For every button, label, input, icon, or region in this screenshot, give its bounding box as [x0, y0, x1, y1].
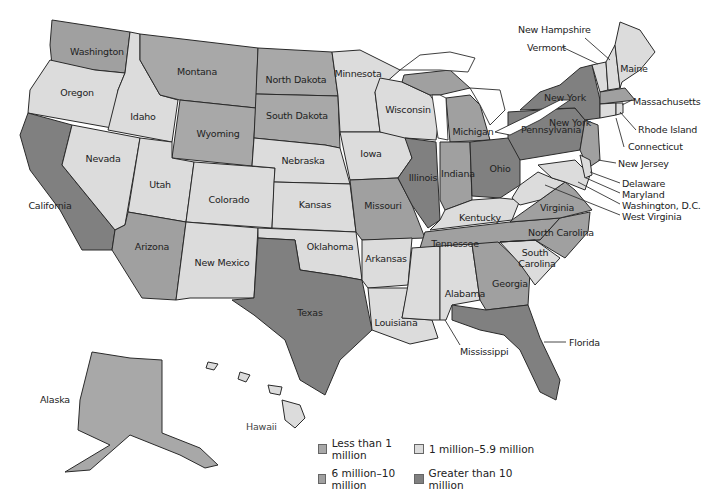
- label-oklahoma: Oklahoma: [307, 241, 354, 252]
- callout-hawaii: Hawaii: [246, 421, 277, 432]
- hawaii-island-3: [238, 372, 250, 382]
- hawaii-island-4: [206, 362, 218, 370]
- label-iowa: Iowa: [360, 148, 381, 159]
- callout-west-virginia: West Virginia: [622, 211, 682, 222]
- label-tennessee: Tennessee: [431, 238, 479, 249]
- callout-delaware: Delaware: [622, 178, 665, 189]
- state-north-dakota[interactable]: [256, 48, 338, 96]
- state-connecticut[interactable]: [600, 103, 616, 118]
- label-ohio: Ohio: [489, 163, 510, 174]
- callout-vermont: Vermont: [527, 42, 566, 53]
- label-illinois: Illinois: [409, 172, 438, 183]
- label-montana: Montana: [177, 66, 217, 77]
- label-nevada: Nevada: [85, 153, 120, 164]
- legend-label: Greater than 10 million: [429, 467, 544, 491]
- label-south-carolina-2: Carolina: [518, 258, 556, 269]
- legend-item-6to10m: 6 million–10 million: [318, 467, 414, 491]
- label-new-york: New York: [549, 117, 591, 128]
- label-virginia: Virginia: [540, 202, 574, 213]
- label-georgia: Georgia: [492, 278, 528, 289]
- label-missouri: Missouri: [364, 200, 402, 211]
- label-louisiana: Louisiana: [374, 317, 417, 328]
- legend-label: 6 million–10 million: [331, 467, 414, 491]
- label-kentucky: Kentucky: [459, 212, 501, 223]
- label-idaho: Idaho: [130, 111, 156, 122]
- label-north-carolina: North Carolina: [528, 227, 594, 238]
- callout-new-hampshire: New Hampshire: [518, 24, 591, 35]
- label-south-carolina-1: South: [522, 247, 549, 258]
- state-maine[interactable]: [615, 22, 655, 88]
- label-utah: Utah: [149, 179, 171, 190]
- callout-maryland: Maryland: [622, 189, 664, 200]
- legend-item-1to59m: 1 million–5.9 million: [414, 437, 544, 461]
- label-nebraska: Nebraska: [281, 155, 324, 166]
- label-minnesota: Minnesota: [334, 68, 381, 79]
- label-south-dakota: South Dakota: [266, 110, 328, 121]
- label-alabama: Alabama: [445, 288, 486, 299]
- legend-swatch: [414, 474, 424, 484]
- label-kansas: Kansas: [299, 199, 331, 210]
- label-maine: Maine: [620, 63, 648, 74]
- label-california: California: [28, 200, 71, 211]
- lake-superior: [400, 52, 475, 72]
- callout-rhode-island: Rhode Island: [638, 124, 697, 135]
- label-michigan: Michigan: [453, 126, 494, 137]
- label-arizona: Arizona: [135, 241, 169, 252]
- legend-label: 1 million–5.9 million: [429, 443, 534, 455]
- callout-massachusetts: Massachusetts: [633, 96, 701, 107]
- callout-mississippi: Mississippi: [460, 346, 508, 357]
- label-new-york: New York: [544, 92, 586, 103]
- callout-florida: Florida: [569, 337, 600, 348]
- label-north-dakota: North Dakota: [266, 74, 327, 85]
- label-washington: Washington: [70, 46, 124, 57]
- legend-item-gt10m: Greater than 10 million: [414, 467, 544, 491]
- label-wyoming: Wyoming: [196, 128, 239, 139]
- label-colorado: Colorado: [209, 194, 250, 205]
- label-alaska: Alaska: [40, 394, 70, 405]
- state-alaska[interactable]: [65, 352, 218, 472]
- callout-connecticut: Connecticut: [628, 141, 683, 152]
- label-arkansas: Arkansas: [365, 253, 407, 264]
- label-texas: Texas: [297, 307, 322, 318]
- label-new-mexico: New Mexico: [195, 257, 250, 268]
- state-hawaii[interactable]: [282, 400, 305, 428]
- legend-item-lt1m: Less than 1 million: [318, 437, 414, 461]
- callout-new-jersey: New Jersey: [618, 158, 669, 169]
- legend-label: Less than 1 million: [332, 437, 414, 461]
- label-oregon: Oregon: [60, 87, 94, 98]
- hawaii-island-2: [268, 385, 282, 395]
- legend: Less than 1 million 1 million–5.9 millio…: [318, 437, 544, 491]
- legend-swatch: [414, 444, 424, 454]
- callout-washington-dc: Washington, D.C.: [622, 200, 701, 211]
- legend-swatch: [318, 474, 326, 484]
- label-wisconsin: Wisconsin: [385, 104, 431, 115]
- label-indiana: Indiana: [441, 168, 475, 179]
- legend-swatch: [318, 444, 327, 454]
